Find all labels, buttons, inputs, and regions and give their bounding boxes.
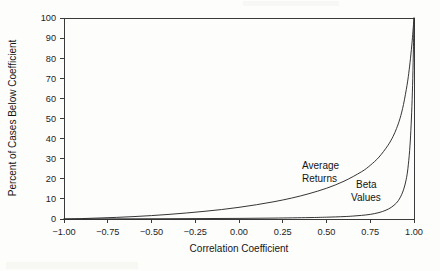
y-axis-title: Percent of Cases Below Coefficient <box>7 39 18 196</box>
correlation-coefficient-cdf-chart: 0102030405060708090100 −1.00−0.75−0.50−0… <box>0 0 440 271</box>
annotation-average-returns-line1: Average <box>302 160 340 171</box>
y-tick-label: 100 <box>41 13 56 23</box>
y-tick-label: 60 <box>46 94 56 104</box>
y-tick-label: 0 <box>51 214 56 224</box>
x-tick-label: 0.75 <box>361 227 379 237</box>
annotation-beta-values-line1: Beta <box>356 179 377 190</box>
annotation-average-returns: Average Returns <box>302 160 340 184</box>
y-tick-label: 50 <box>46 114 56 124</box>
annotation-beta-values-line2: Values <box>351 192 381 203</box>
x-tick-label: −0.25 <box>184 227 207 237</box>
x-tick-label: −0.50 <box>140 227 163 237</box>
y-tick-label: 10 <box>46 194 56 204</box>
annotation-beta-values: Beta Values <box>351 179 381 203</box>
x-tick-label: 1.00 <box>405 227 423 237</box>
x-tick-label: −1.00 <box>52 227 75 237</box>
x-tick-label: 0.25 <box>274 227 292 237</box>
x-axis-title: Correlation Coefficient <box>190 243 289 254</box>
y-tick-label: 20 <box>46 174 56 184</box>
x-tick-label: 0.50 <box>318 227 336 237</box>
y-tick-label: 70 <box>46 74 56 84</box>
x-axis: −1.00−0.75−0.50−0.250.000.250.500.751.00 <box>52 219 423 237</box>
chart-page: 0102030405060708090100 −1.00−0.75−0.50−0… <box>0 0 440 271</box>
x-tick-label: 0.00 <box>230 227 248 237</box>
y-tick-label: 80 <box>46 54 56 64</box>
y-tick-label: 30 <box>46 154 56 164</box>
x-tick-label: −0.75 <box>96 227 119 237</box>
y-tick-label: 90 <box>46 33 56 43</box>
y-tick-label: 40 <box>46 134 56 144</box>
annotation-average-returns-line2: Returns <box>302 173 337 184</box>
y-axis: 0102030405060708090100 <box>41 13 64 224</box>
